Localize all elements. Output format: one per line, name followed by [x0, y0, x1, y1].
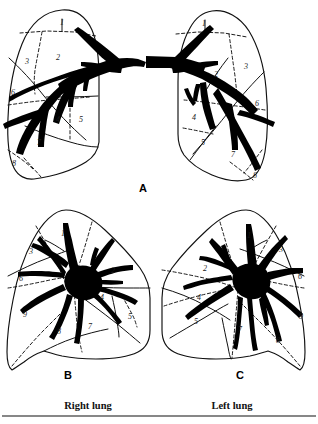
seg-label-c-6: 6 — [298, 272, 302, 281]
lung-segments-figure: 1 2 3 6 4 5 7 8 1 2 3 6 4 5 7 8 A — [0, 0, 318, 424]
seg-label-a-l-3: 3 — [243, 62, 248, 71]
seg-label-a-l-8: 8 — [253, 171, 257, 180]
seg-label-c-5: 5 — [194, 317, 198, 326]
panel-b-branch-small-2 — [99, 280, 123, 285]
panel-b-right-lung-medial — [7, 210, 150, 370]
seg-label-a-r-6: 6 — [11, 88, 15, 97]
seg-label-c-9: 9 — [299, 312, 303, 321]
panel-letter-c: C — [236, 369, 244, 381]
seg-label-c-1: 1 — [247, 231, 251, 240]
caption-right-lung: Right lung — [64, 400, 112, 411]
panel-c-left-lung-medial — [162, 210, 305, 370]
seg-label-a-l-2: 2 — [214, 70, 218, 79]
panel-a-left-lung — [146, 11, 275, 181]
seg-label-a-r-5: 5 — [79, 115, 83, 124]
seg-label-a-r-3: 3 — [24, 57, 29, 66]
seg-label-a-l-1: 1 — [202, 19, 206, 28]
seg-label-a-l-5: 5 — [201, 138, 205, 147]
seg-label-b-8: 8 — [57, 327, 61, 336]
panel-letter-a: A — [139, 182, 147, 194]
caption-left-lung: Left lung — [211, 400, 253, 411]
seg-label-a-l-4: 4 — [192, 113, 196, 122]
seg-label-c-2: 2 — [203, 264, 207, 273]
seg-label-a-r-8: 8 — [12, 159, 16, 168]
seg-label-c-8: 8 — [276, 336, 280, 345]
seg-label-a-l-6: 6 — [255, 99, 259, 108]
seg-label-c-4: 4 — [197, 293, 201, 302]
seg-label-a-r-1: 1 — [60, 18, 64, 27]
seg-label-b-6: 6 — [19, 274, 23, 283]
figure-canvas: 1 2 3 6 4 5 7 8 1 2 3 6 4 5 7 8 A — [0, 0, 318, 424]
seg-label-b-3: 3 — [28, 247, 33, 256]
seg-label-b-2: 2 — [111, 266, 115, 275]
seg-label-b-5: 5 — [128, 312, 132, 321]
seg-label-b-4: 4 — [100, 293, 104, 302]
seg-label-c-3: 3 — [278, 245, 283, 254]
seg-label-a-r-2: 2 — [56, 53, 60, 62]
panel-letter-b: B — [64, 369, 72, 381]
seg-label-a-r-4: 4 — [56, 115, 60, 124]
seg-label-b-9: 9 — [23, 310, 27, 319]
panel-a-right-lung — [3, 10, 146, 179]
seg-label-b-1: 1 — [61, 229, 65, 238]
